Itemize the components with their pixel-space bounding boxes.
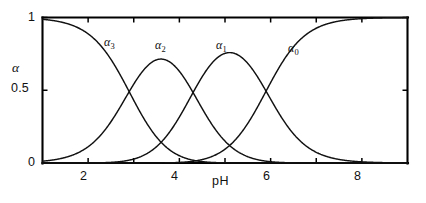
curve-label-alpha1: α1 <box>216 39 227 51</box>
curve-label-alpha0: α0 <box>288 42 299 54</box>
curve-label-subscript: 3 <box>111 41 115 51</box>
curve-label-subscript: 2 <box>162 44 166 54</box>
curve-label-alpha2: α2 <box>155 39 166 51</box>
curve-alpha1 <box>43 53 408 163</box>
y-tick-label-1: 1 <box>28 11 35 24</box>
x-tick-label-6: 6 <box>263 170 270 183</box>
curve-label-base: α <box>155 38 161 52</box>
y-tick-label-0: 0 <box>28 156 35 169</box>
plot-canvas <box>0 0 426 203</box>
y-tick-label-05: 0.5 <box>11 82 29 95</box>
curve-alpha2 <box>43 59 408 163</box>
y-axis-label: α <box>12 61 20 75</box>
x-tick-label-4: 4 <box>171 170 178 183</box>
curve-label-base: α <box>216 38 222 52</box>
x-tick-label-8: 8 <box>354 170 361 183</box>
curve-label-base: α <box>288 41 294 55</box>
curve-label-subscript: 0 <box>295 47 299 57</box>
x-axis-label: pH <box>212 175 229 188</box>
curve-label-base: α <box>104 35 110 49</box>
curve-label-subscript: 1 <box>223 44 227 54</box>
x-tick-label-2: 2 <box>80 170 87 183</box>
curve-label-alpha3: α3 <box>104 36 115 48</box>
alpha-distribution-figure: 1 0.5 0 α 2 4 6 8 pH α3 α2 α1 α0 <box>0 0 426 203</box>
